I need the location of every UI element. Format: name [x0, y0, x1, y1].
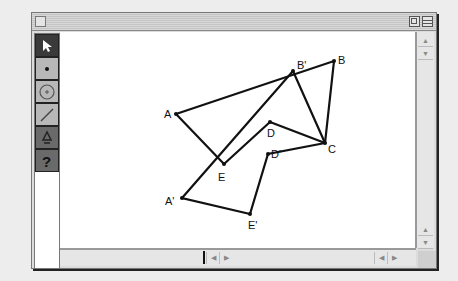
scroll-down-arrow-icon-2[interactable]: ▼: [418, 236, 433, 249]
tool-compass[interactable]: [35, 80, 59, 103]
scroll-left-arrow-icon[interactable]: ◀: [206, 252, 219, 264]
scroll-right-arrow-icon-2[interactable]: ▶: [387, 252, 400, 264]
arrow-pointer-icon: [41, 39, 53, 53]
scroll-up-arrow-icon[interactable]: ▲: [418, 34, 433, 47]
tool-help[interactable]: ?: [35, 149, 59, 172]
tool-selection-arrow[interactable]: [35, 34, 59, 57]
scroll-down-arrow-icon[interactable]: ▼: [418, 47, 433, 60]
vertical-scrollbar[interactable]: ▲ ▼ ▲ ▼: [416, 32, 434, 248]
point-icon: [43, 65, 51, 73]
title-bar[interactable]: [32, 13, 436, 31]
point-a[interactable]: [174, 112, 178, 116]
svg-text:?: ?: [42, 153, 51, 169]
sketch-drawing[interactable]: ABCDEA'B'D'E': [60, 32, 415, 248]
label-b[interactable]: B: [338, 54, 345, 66]
tool-point[interactable]: [35, 57, 59, 80]
sketch-canvas[interactable]: ABCDEA'B'D'E': [60, 32, 416, 249]
point-d[interactable]: [268, 120, 272, 124]
grow-box[interactable]: [418, 251, 436, 268]
zoom-box-button[interactable]: [409, 16, 420, 27]
point-a-prime[interactable]: [180, 196, 184, 200]
point-e-prime[interactable]: [248, 212, 252, 216]
label-e-prime[interactable]: E': [248, 219, 257, 231]
scroll-up-arrow-icon-2[interactable]: ▲: [418, 223, 433, 236]
scroll-right-arrow-icon[interactable]: ▶: [219, 252, 232, 264]
collapse-box-button[interactable]: [422, 16, 433, 27]
label-d-prime[interactable]: D': [271, 148, 281, 160]
label-e[interactable]: E: [218, 171, 225, 183]
toolbox: ?: [34, 33, 60, 269]
label-c[interactable]: C: [328, 143, 336, 155]
point-c[interactable]: [323, 141, 327, 145]
close-box-button[interactable]: [35, 16, 46, 27]
scroll-left-arrow-icon-2[interactable]: ◀: [374, 252, 387, 264]
line-segment-icon: [38, 106, 56, 124]
label-a-prime[interactable]: A': [165, 195, 174, 207]
question-mark-icon: ?: [40, 153, 54, 169]
label-a[interactable]: A: [164, 108, 172, 120]
script-icon: [39, 130, 55, 146]
point-b[interactable]: [332, 59, 336, 63]
sketch-window: ? ABCDEA'B'D'E' ▲ ▼ ▲ ▼ ◀ ▶ ◀ ▶: [31, 12, 437, 269]
label-b-prime[interactable]: B': [297, 59, 306, 71]
tool-script[interactable]: [35, 126, 59, 149]
point-d-prime[interactable]: [266, 152, 270, 156]
circle-icon: [38, 83, 56, 101]
tool-straightedge[interactable]: [35, 103, 59, 126]
point-e[interactable]: [222, 162, 226, 166]
point-b-prime[interactable]: [291, 69, 295, 73]
horizontal-scrollbar[interactable]: ◀ ▶ ◀ ▶: [60, 249, 416, 266]
label-d[interactable]: D: [267, 127, 275, 139]
pane-splitter[interactable]: [203, 251, 205, 264]
